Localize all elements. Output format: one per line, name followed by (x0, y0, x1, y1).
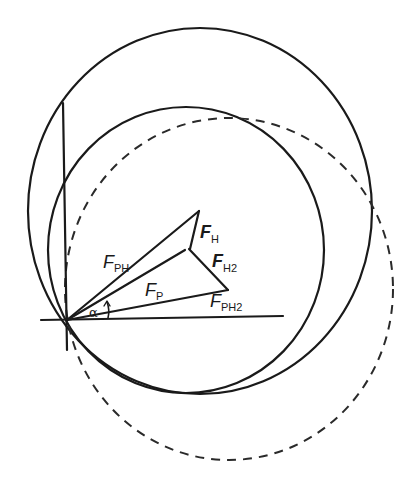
label-f-p: FP (145, 280, 163, 302)
vertical-axis (63, 103, 67, 350)
label-alpha: α (89, 305, 98, 320)
label-f-ph2: FPH2 (210, 291, 242, 313)
label-f-ph: FPH (103, 252, 129, 274)
label-f-h2: FH2 (212, 251, 237, 274)
dashed-circle (65, 118, 393, 460)
label-f-h: FH (200, 222, 219, 245)
force-diagram: FPH FH FH2 FP FPH2 α (0, 0, 409, 485)
vector-f-ph (67, 211, 199, 320)
